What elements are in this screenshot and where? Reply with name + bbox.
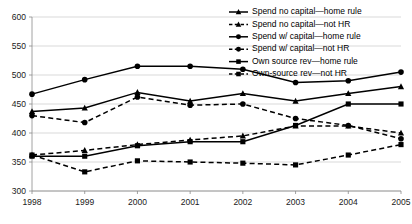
x-axis-tick-labels: 19981999200020012002200320042005 bbox=[23, 197, 411, 207]
series-path bbox=[32, 87, 401, 112]
y-tick-label: 550 bbox=[12, 41, 26, 51]
x-tick-label: 2005 bbox=[392, 197, 411, 207]
series-path bbox=[32, 104, 401, 156]
circle-marker bbox=[345, 123, 351, 129]
square-marker bbox=[82, 169, 87, 174]
x-tick-label: 2000 bbox=[128, 197, 147, 207]
circle-marker bbox=[293, 116, 299, 122]
y-axis-tick-labels: 300350400450500550600 bbox=[12, 12, 26, 196]
line-chart: 300350400450500550600 199819992000200120… bbox=[0, 0, 412, 224]
series-3 bbox=[29, 94, 404, 141]
square-marker bbox=[236, 72, 241, 77]
legend-label: Spend no capital—not HR bbox=[252, 19, 350, 29]
circle-marker bbox=[187, 63, 193, 69]
square-marker bbox=[135, 143, 140, 148]
circle-marker bbox=[82, 77, 88, 83]
legend-label: Own source rev—home rule bbox=[252, 56, 358, 66]
x-tick-label: 2001 bbox=[181, 197, 200, 207]
square-marker bbox=[188, 139, 193, 144]
series-path bbox=[32, 145, 401, 172]
circle-marker bbox=[82, 120, 88, 126]
circle-marker bbox=[293, 80, 299, 86]
legend-item-2[interactable]: Spend w/ capital—home rule bbox=[229, 31, 361, 41]
square-marker bbox=[346, 152, 351, 157]
x-tick-label: 1998 bbox=[23, 197, 42, 207]
legend-item-0[interactable]: Spend no capital—home rule bbox=[229, 6, 362, 16]
legend-label: Spend w/ capital—not HR bbox=[252, 43, 349, 53]
square-marker bbox=[236, 59, 241, 64]
square-marker bbox=[293, 123, 298, 128]
x-tick-label: 2003 bbox=[286, 197, 305, 207]
square-marker bbox=[29, 152, 34, 157]
square-marker bbox=[398, 142, 403, 147]
y-tick-label: 450 bbox=[12, 99, 26, 109]
series-path bbox=[32, 97, 401, 139]
circle-marker bbox=[29, 113, 35, 119]
circle-marker bbox=[135, 94, 141, 100]
y-tick-label: 500 bbox=[12, 70, 26, 80]
series-group bbox=[29, 63, 404, 174]
x-tick-label: 2002 bbox=[233, 197, 252, 207]
y-tick-label: 600 bbox=[12, 12, 26, 22]
chart-canvas: 300350400450500550600 199819992000200120… bbox=[0, 0, 412, 224]
x-tick-label: 1999 bbox=[75, 197, 94, 207]
square-marker bbox=[240, 139, 245, 144]
square-marker bbox=[398, 101, 403, 106]
y-tick-label: 400 bbox=[12, 128, 26, 138]
legend-item-4[interactable]: Own source rev—home rule bbox=[229, 56, 358, 66]
y-tick-label: 350 bbox=[12, 157, 26, 167]
legend-item-3[interactable]: Spend w/ capital—not HR bbox=[229, 43, 349, 53]
legend-label: Spend w/ capital—home rule bbox=[252, 31, 361, 41]
legend-label: Spend no capital—home rule bbox=[252, 6, 362, 16]
square-marker bbox=[240, 161, 245, 166]
legend-label: Own-source rev—not HR bbox=[252, 68, 347, 78]
circle-marker bbox=[29, 91, 35, 97]
circle-marker bbox=[135, 63, 141, 69]
circle-marker bbox=[345, 78, 351, 84]
legend-item-1[interactable]: Spend no capital—not HR bbox=[229, 19, 350, 29]
square-marker bbox=[82, 154, 87, 159]
circle-marker bbox=[240, 101, 246, 107]
x-tick-label: 2004 bbox=[339, 197, 358, 207]
circle-marker bbox=[398, 136, 404, 142]
square-marker bbox=[188, 159, 193, 164]
circle-marker bbox=[398, 69, 404, 75]
square-marker bbox=[135, 158, 140, 163]
square-marker bbox=[293, 162, 298, 167]
series-path bbox=[32, 126, 401, 155]
square-marker bbox=[346, 101, 351, 106]
y-tick-label: 300 bbox=[12, 186, 26, 196]
circle-marker bbox=[240, 66, 246, 72]
circle-marker bbox=[236, 34, 241, 39]
circle-marker bbox=[236, 47, 241, 52]
series-0 bbox=[29, 83, 404, 114]
circle-marker bbox=[187, 102, 193, 108]
